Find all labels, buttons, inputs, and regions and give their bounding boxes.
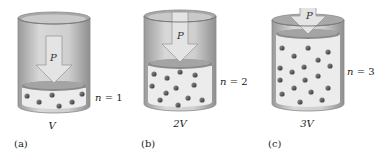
- pressure-label-b: P: [177, 30, 184, 41]
- volume-label-b: 2V: [160, 118, 200, 129]
- moles-label-c: n = 3: [347, 66, 375, 77]
- cylinder-c: [268, 8, 348, 114]
- cylinder-a: [14, 10, 94, 116]
- caption-a: (a): [14, 138, 28, 149]
- moles-label-b: n = 2: [220, 76, 248, 87]
- panel-b: P n = 2 2V (b): [125, 0, 250, 151]
- caption-b: (b): [141, 138, 155, 149]
- moles-label-a: n = 1: [95, 92, 123, 103]
- pressure-label-a: P: [50, 52, 57, 63]
- caption-c: (c): [268, 138, 281, 149]
- cylinder-b: [140, 8, 220, 114]
- pressure-label-c: P: [306, 10, 313, 21]
- volume-label-c: 3V: [287, 118, 327, 129]
- panel-c: P n = 3 3V (c): [250, 0, 373, 151]
- panel-a: P n = 1 V (a): [0, 0, 125, 151]
- volume-label-a: V: [32, 120, 72, 131]
